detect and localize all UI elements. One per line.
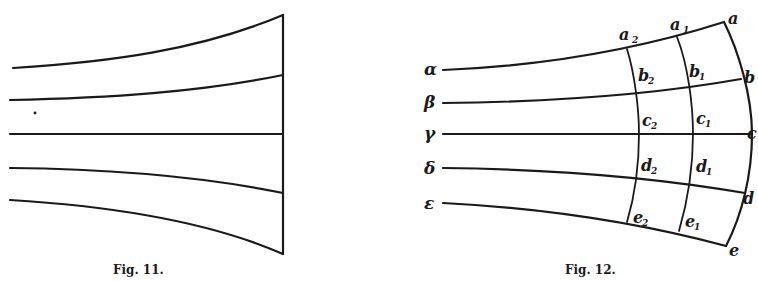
label-a2-sub: 2 [631, 35, 638, 45]
cell-e1-sub: 1 [694, 222, 700, 232]
fig11-flow-line-5 [10, 200, 283, 254]
fig-11: Fig. 11. [10, 15, 283, 277]
fig11-dot [34, 112, 37, 115]
fig11-flow-line-2 [10, 75, 283, 100]
fig11-flow-line-1 [13, 15, 283, 68]
label-a1-sub: 1 [683, 25, 689, 35]
label-gamma: γ [424, 123, 436, 143]
cell-e2-sub: 2 [641, 218, 648, 228]
label-beta: β [423, 92, 435, 112]
label-e: e [729, 241, 739, 260]
label-c: c [747, 124, 757, 143]
label-a2: a [619, 25, 629, 44]
label-d: d [743, 189, 754, 208]
cell-d1-sub: 1 [706, 167, 712, 177]
cell-b2-sub: 2 [647, 76, 654, 86]
label-b: b [744, 68, 755, 87]
fig12-flow-line-epsilon [443, 203, 726, 246]
label-epsilon: ε [424, 193, 434, 213]
cell-c1-sub: 1 [705, 119, 711, 129]
fig12-flow-line-beta [443, 79, 741, 103]
cell-d2-sub: 2 [650, 166, 657, 176]
label-a1: a [670, 15, 680, 34]
label-alpha: α [424, 59, 437, 79]
fig11-flow-line-4 [10, 168, 283, 193]
label-delta: δ [423, 158, 435, 178]
fig-12: α β γ δ ε a b c d e a 1 a 2 b 1 c 1 d 1 … [423, 9, 757, 277]
cell-b1-sub: 1 [699, 72, 705, 82]
label-a: a [728, 9, 738, 28]
cell-c2-sub: 2 [650, 121, 657, 131]
fig12-caption: Fig. 12. [565, 263, 616, 277]
figure-canvas: Fig. 11. α β γ δ ε a b c d e a 1 a 2 b 1… [0, 0, 758, 281]
fig12-flow-line-alpha [443, 22, 724, 70]
fig11-caption: Fig. 11. [113, 263, 164, 277]
